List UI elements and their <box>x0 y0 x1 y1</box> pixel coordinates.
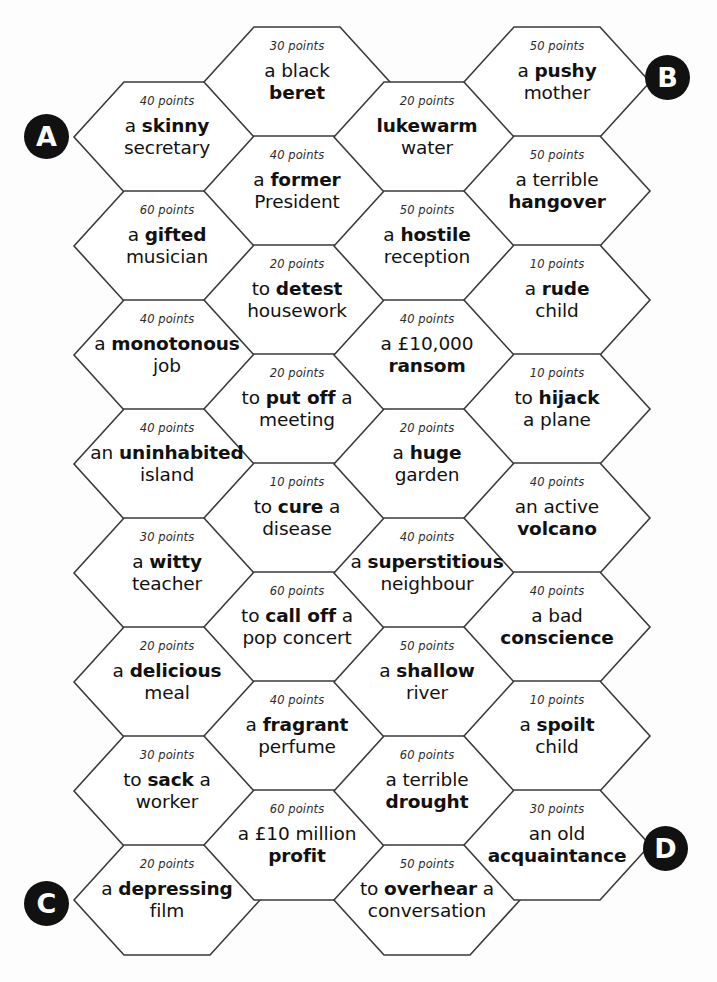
hexagon-points-label: 30 points <box>530 804 585 816</box>
hexagon-points-label: 40 points <box>270 150 325 162</box>
hexagon-points-label: 40 points <box>140 96 195 108</box>
hexagon-cell[interactable]: 10 pointsto hijacka plane <box>464 354 650 464</box>
hexagon-points-label: 20 points <box>140 859 195 871</box>
hexagon-points-label: 20 points <box>140 641 195 653</box>
hexagon-points-label: 50 points <box>530 41 585 53</box>
hexagon-points-label: 40 points <box>400 532 455 544</box>
hexagon-phrase: a terriblehangover <box>469 169 645 214</box>
hexagon-points-label: 10 points <box>270 477 325 489</box>
corner-badge-d[interactable]: D <box>643 826 688 871</box>
hexagon-points-label: 40 points <box>530 477 585 489</box>
hexagon-cell[interactable]: 40 pointsa badconscience <box>464 572 650 682</box>
hexagon-phrase: a rudechild <box>469 278 645 323</box>
hexagon-phrase: a badconscience <box>469 605 645 650</box>
hexagon-points-label: 10 points <box>530 368 585 380</box>
hexagon-points-label: 20 points <box>270 259 325 271</box>
hexagon-phrase: an oldacquaintance <box>469 823 645 868</box>
hexagon-points-label: 40 points <box>530 586 585 598</box>
hexagon-phrase: a spoiltchild <box>469 714 645 759</box>
corner-badge-a[interactable]: A <box>24 114 69 159</box>
hexagon-points-label: 60 points <box>400 750 455 762</box>
hexagon-points-label: 40 points <box>140 423 195 435</box>
hexagon-points-label: 20 points <box>400 96 455 108</box>
hexagon-points-label: 40 points <box>270 695 325 707</box>
hexagon-phrase: to hijacka plane <box>469 387 645 432</box>
hexagon-points-label: 50 points <box>400 859 455 871</box>
hexagon-points-label: 50 points <box>400 205 455 217</box>
hexagon-points-label: 40 points <box>400 314 455 326</box>
hexagon-points-label: 20 points <box>270 368 325 380</box>
hexagon-points-label: 50 points <box>530 150 585 162</box>
hexagon-cell[interactable]: 50 pointsa pushymother <box>464 27 650 137</box>
hexagon-board: 40 pointsa skinnysecretary60 pointsa gif… <box>0 0 717 982</box>
corner-badge-b[interactable]: B <box>645 55 690 100</box>
hexagon-points-label: 30 points <box>140 532 195 544</box>
hexagon-cell[interactable]: 40 pointsan activevolcano <box>464 463 650 573</box>
hexagon-points-label: 10 points <box>530 695 585 707</box>
hexagon-cell[interactable]: 10 pointsa rudechild <box>464 245 650 355</box>
hexagon-cell[interactable]: 10 pointsa spoiltchild <box>464 681 650 791</box>
hexagon-points-label: 60 points <box>140 205 195 217</box>
hexagon-points-label: 60 points <box>270 804 325 816</box>
hexagon-phrase: a pushymother <box>469 60 645 105</box>
hexagon-points-label: 60 points <box>270 586 325 598</box>
hexagon-points-label: 30 points <box>140 750 195 762</box>
hexagon-points-label: 10 points <box>530 259 585 271</box>
hexagon-points-label: 40 points <box>140 314 195 326</box>
hexagon-cell[interactable]: 50 pointsa terriblehangover <box>464 136 650 246</box>
hexagon-phrase: an activevolcano <box>469 496 645 541</box>
hexagon-points-label: 50 points <box>400 641 455 653</box>
corner-badge-c[interactable]: C <box>24 881 69 926</box>
hexagon-points-label: 30 points <box>270 41 325 53</box>
hexagon-points-label: 20 points <box>400 423 455 435</box>
hexagon-cell[interactable]: 30 pointsan oldacquaintance <box>464 790 650 900</box>
